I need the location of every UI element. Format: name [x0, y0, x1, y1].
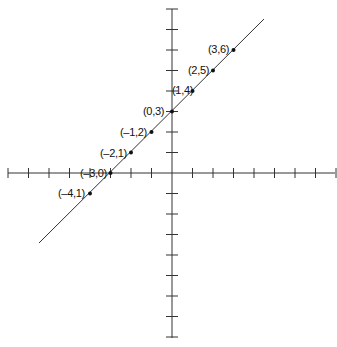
point-label: (1,4) — [172, 84, 193, 96]
data-point — [129, 151, 133, 155]
data-point — [232, 48, 236, 52]
point-label: (3,6) — [208, 43, 229, 55]
data-point — [88, 192, 92, 196]
point-label: (–3,0) — [80, 167, 107, 179]
point-label: (–1,2) — [120, 126, 147, 138]
point-labels: (–4,1) (–3,0) (–2,1) (–1,2) (0,3) (1,4) … — [58, 43, 229, 199]
point-label: (2,5) — [188, 64, 209, 76]
point-label: (–2,1) — [100, 147, 127, 159]
data-point — [211, 69, 215, 73]
data-point — [109, 171, 113, 175]
data-point — [150, 130, 154, 134]
data-point — [170, 110, 174, 114]
point-label: (0,3) — [143, 105, 164, 117]
point-label: (–4,1) — [58, 187, 85, 199]
coordinate-plane: (–4,1) (–3,0) (–2,1) (–1,2) (0,3) (1,4) … — [0, 0, 337, 347]
